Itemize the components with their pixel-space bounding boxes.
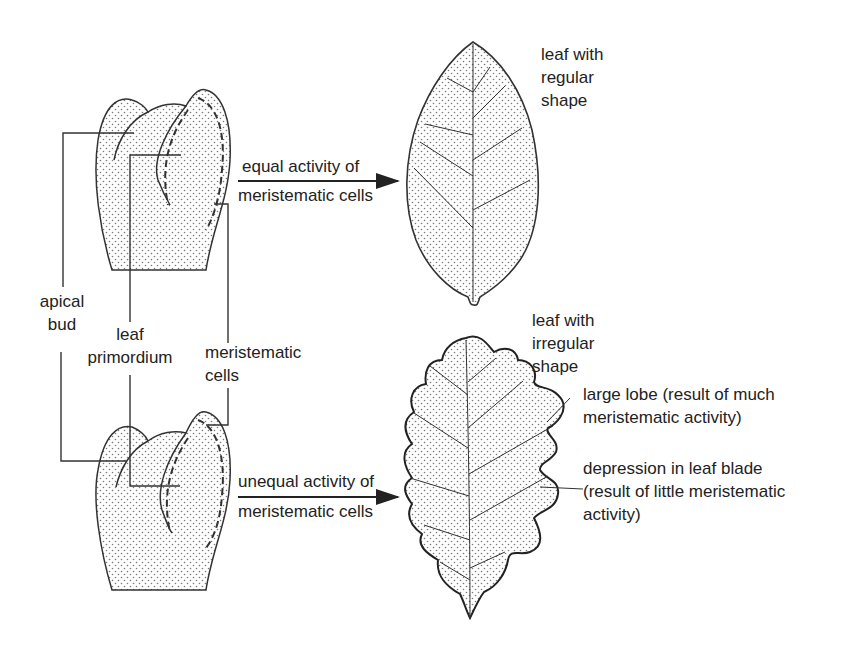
leaf-primordium-label: leaf primordium (80, 323, 180, 369)
depression-line-1: depression in leaf blade (583, 457, 785, 480)
regular-leaf-line-1: leaf with (541, 43, 603, 66)
oak-leaf-icon (404, 336, 583, 618)
regular-leaf-icon (407, 42, 538, 305)
apical-bud-top-icon (96, 90, 230, 270)
large-lobe-label: large lobe (result of much meristematic … (583, 383, 775, 429)
apical-bud-line-1: apical (22, 290, 102, 313)
irregular-leaf-line-2: irregular (532, 332, 594, 355)
equal-activity-top-label: equal activity of (242, 155, 359, 178)
leaf-primordium-line-1: leaf (80, 323, 180, 346)
regular-leaf-line-3: shape (541, 89, 603, 112)
large-lobe-line-1: large lobe (result of much (583, 383, 775, 406)
unequal-activity-top-label: unequal activity of (238, 470, 374, 493)
large-lobe-line-2: meristematic activity) (583, 406, 775, 429)
regular-leaf-line-2: regular (541, 66, 603, 89)
meristematic-cells-line-2: cells (205, 364, 301, 387)
irregular-leaf-line-1: leaf with (532, 309, 594, 332)
apical-bud-bottom-icon (96, 412, 230, 590)
depression-label: depression in leaf blade (result of litt… (583, 457, 785, 526)
irregular-leaf-line-3: shape (532, 355, 594, 378)
irregular-leaf-label: leaf with irregular shape (532, 309, 594, 378)
regular-leaf-label: leaf with regular shape (541, 43, 603, 112)
meristematic-cells-label: meristematic cells (205, 341, 301, 387)
meristematic-cells-line-1: meristematic (205, 341, 301, 364)
equal-activity-bottom-label: meristematic cells (238, 184, 373, 207)
depression-line-2: (result of little meristematic (583, 480, 785, 503)
unequal-activity-bottom-label: meristematic cells (238, 500, 373, 523)
leaf-primordium-line-2: primordium (80, 346, 180, 369)
depression-line-3: activity) (583, 503, 785, 526)
